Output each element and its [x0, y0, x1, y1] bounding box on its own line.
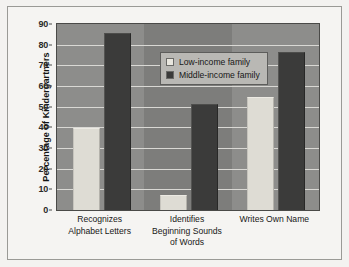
y-tick-label: 80	[38, 40, 48, 50]
x-axis-tick-labels: Recognizes Alphabet LettersIdentifies Be…	[56, 214, 320, 262]
y-tick-mark	[49, 65, 52, 66]
x-tick-label: Identifies Beginning Sounds of Words	[143, 214, 230, 249]
bar-1-2	[278, 52, 305, 210]
y-tick-label: 90	[38, 19, 48, 29]
y-tick-mark	[49, 148, 52, 149]
bar-0-2	[247, 97, 274, 210]
y-tick-mark	[49, 44, 52, 45]
y-tick-mark	[49, 210, 52, 211]
x-tick-label: Writes Own Name	[231, 214, 318, 226]
y-tick-label: 60	[38, 81, 48, 91]
y-tick-label: 10	[38, 184, 48, 194]
y-tick-mark	[49, 86, 52, 87]
legend-item-low-income: Low-income family	[166, 57, 260, 67]
gridline	[57, 45, 319, 46]
y-tick-label: 0	[43, 205, 48, 215]
bar-0-0	[73, 128, 100, 210]
y-tick-label: 70	[38, 60, 48, 70]
y-tick-mark	[49, 24, 52, 25]
x-tick-label: Recognizes Alphabet Letters	[56, 214, 143, 237]
low-income-swatch-icon	[166, 58, 174, 66]
y-tick-label: 50	[38, 102, 48, 112]
y-tick-label: 40	[38, 122, 48, 132]
bar-0-1	[160, 195, 187, 210]
chart-legend: Low-income family Middle-income family	[160, 52, 268, 85]
legend-label-low-income: Low-income family	[179, 57, 250, 67]
plot-wrapper: Low-income family Middle-income family	[56, 23, 320, 211]
bar-1-1	[191, 104, 218, 210]
chart-figure: Percentage of Kindergartners 01020304050…	[0, 0, 349, 267]
y-tick-mark	[49, 106, 52, 107]
y-axis-tick-labels: 0102030405060708090	[26, 23, 52, 211]
bar-1-0	[104, 33, 131, 210]
legend-label-middle-income: Middle-income family	[179, 70, 260, 80]
y-tick-mark	[49, 127, 52, 128]
y-tick-mark	[49, 189, 52, 190]
y-tick-label: 20	[38, 164, 48, 174]
y-tick-mark	[49, 168, 52, 169]
legend-item-middle-income: Middle-income family	[166, 70, 260, 80]
middle-income-swatch-icon	[166, 71, 174, 79]
y-tick-label: 30	[38, 143, 48, 153]
